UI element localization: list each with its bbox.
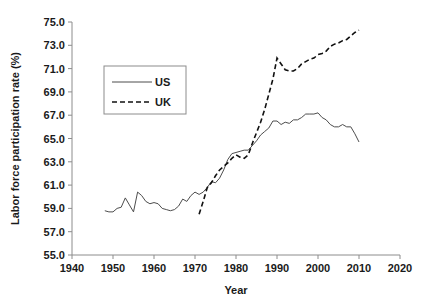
- y-tick-label: 75.0: [44, 16, 65, 28]
- y-tick-label: 63.0: [44, 156, 65, 168]
- x-tick-label: 1950: [101, 262, 125, 274]
- x-tick-label: 1990: [265, 262, 289, 274]
- x-tick-label: 1940: [60, 262, 84, 274]
- y-axis-title: Labor force participation rate (%): [9, 52, 21, 225]
- y-tick-label: 55.0: [44, 249, 65, 261]
- x-tick-label: 2000: [306, 262, 330, 274]
- chart-legend: USUK: [104, 66, 186, 114]
- x-tick-label: 2020: [388, 262, 412, 274]
- y-tick-label: 59.0: [44, 202, 65, 214]
- line-chart: 55.057.059.061.063.065.067.069.071.073.0…: [0, 0, 434, 307]
- y-tick-label: 71.0: [44, 63, 65, 75]
- x-tick-label: 1980: [224, 262, 248, 274]
- y-tick-label: 69.0: [44, 86, 65, 98]
- x-tick-label: 1970: [183, 262, 207, 274]
- series-line-us: [105, 113, 359, 212]
- y-tick-label: 61.0: [44, 179, 65, 191]
- y-tick-label: 57.0: [44, 226, 65, 238]
- legend-box: [104, 66, 186, 114]
- y-axis-ticks: 55.057.059.061.063.065.067.069.071.073.0…: [44, 16, 72, 261]
- legend-label-uk: UK: [155, 96, 171, 108]
- x-axis-title: Year: [224, 284, 248, 296]
- series-group: [105, 30, 359, 214]
- y-tick-label: 73.0: [44, 39, 65, 51]
- y-tick-label: 67.0: [44, 109, 65, 121]
- x-tick-label: 2010: [347, 262, 371, 274]
- x-axis-ticks: 194019501960197019801990200020102020: [60, 255, 412, 274]
- legend-label-us: US: [155, 76, 170, 88]
- chart-canvas: 55.057.059.061.063.065.067.069.071.073.0…: [0, 0, 434, 307]
- x-tick-label: 1960: [142, 262, 166, 274]
- y-tick-label: 65.0: [44, 133, 65, 145]
